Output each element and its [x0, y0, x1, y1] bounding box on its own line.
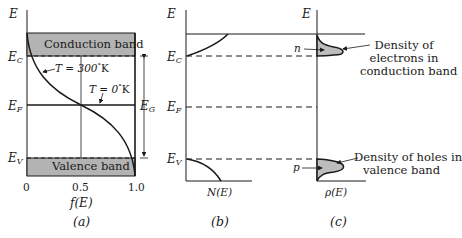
hole-symbol: p	[293, 162, 300, 173]
panel-b-ec-label: EC	[167, 51, 182, 65]
panel-a-energy-axis-label: E	[9, 8, 18, 20]
electron-density-peak	[317, 35, 343, 56]
panel-b-x-axis-label: N(E)	[207, 187, 232, 198]
valence-band-label: Valence band	[52, 161, 130, 173]
panel-a-graphics	[27, 10, 148, 176]
panel-b-ef-label: EF	[167, 101, 181, 115]
electron-symbol: n	[294, 43, 301, 54]
x-tick-1.0: 1.0	[128, 182, 145, 193]
panel-c-energy-axis-label: E	[302, 8, 311, 20]
panel-c-x-axis-label: ρ(E)	[325, 187, 347, 198]
conduction-density-of-states	[187, 34, 228, 56]
panel-b-ev-label: EV	[167, 153, 182, 167]
panel-a-x-axis-label: f(E)	[70, 197, 93, 209]
curve-0k-label: T = 0°K	[89, 84, 130, 95]
electron-density-note: Density of electrons in conduction band	[360, 39, 448, 79]
conduction-band-label: Conduction band	[44, 39, 144, 51]
band-gap-label: EG	[140, 100, 155, 114]
x-tick-0: 0	[23, 182, 30, 193]
x-tick-0.5: 0.5	[72, 182, 89, 193]
valence-density-of-states	[187, 159, 221, 181]
panel-a-ev-label: EV	[8, 152, 23, 166]
panel-c-caption: (c)	[330, 216, 347, 229]
panel-a-ef-label: EF	[8, 100, 22, 114]
panel-b-energy-axis-label: E	[167, 8, 176, 20]
panel-b-caption: (b)	[211, 216, 229, 229]
hole-density-note: Density of holes in valence band	[354, 151, 449, 177]
panel-b-graphics	[186, 10, 365, 181]
panel-a-caption: (a)	[73, 216, 90, 229]
panel-a-ec-label: EC	[8, 51, 23, 65]
curve-300k-label: T = 300°K	[55, 63, 109, 74]
